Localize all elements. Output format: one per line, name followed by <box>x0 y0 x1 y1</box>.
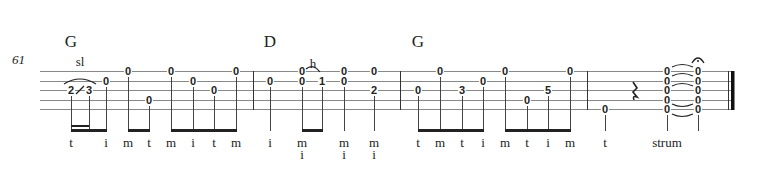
slurs-and-symbols <box>0 0 770 180</box>
final-barline-thin <box>728 71 729 110</box>
slide-slash-icon <box>76 86 84 94</box>
tie-icon <box>672 104 693 107</box>
tie-icon <box>672 74 693 77</box>
tie-icon <box>672 65 693 68</box>
slide-arc-icon <box>64 79 96 84</box>
hammer-arc-icon <box>306 67 320 72</box>
tie-icon <box>672 84 693 87</box>
final-barline-thick <box>731 71 735 110</box>
tie-icon <box>672 114 693 117</box>
quarter-rest-icon <box>633 82 637 100</box>
